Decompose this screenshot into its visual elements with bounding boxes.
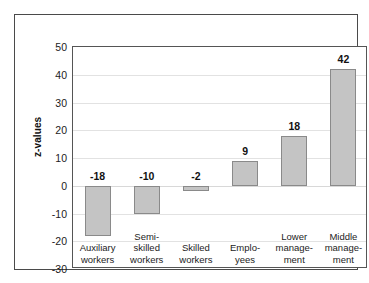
y-axis-title: z-values: [32, 117, 43, 157]
y-axis-tick-label: 10: [55, 152, 67, 164]
bar-category-slot: -10Semi-skilledworkers: [122, 47, 171, 267]
bar-category-slot: 42Middlemanage-ment: [319, 47, 368, 267]
x-axis-category-label: Middlemanage-ment: [325, 231, 363, 266]
bars-group: -18Auxiliaryworkers-10Semi-skilledworker…: [73, 47, 366, 267]
bar-value-label: -10: [139, 170, 154, 182]
bar[interactable]: [183, 186, 209, 192]
bar-value-label: 18: [288, 120, 300, 132]
y-axis-tick-label: 50: [55, 41, 67, 53]
bar-category-slot: 18Lowermanage-ment: [270, 47, 319, 267]
y-axis-tick-label: -20: [52, 235, 67, 247]
x-axis-category-label: Emplo-yees: [230, 242, 260, 265]
figure-outer-frame: z-values 50403020100-10-20-30 -18Auxilia…: [14, 14, 358, 270]
y-axis-tick-label: 20: [55, 124, 67, 136]
bar[interactable]: [281, 136, 307, 186]
y-axis-tick-label: -10: [52, 208, 67, 220]
y-axis-tick-label: 0: [61, 180, 67, 192]
plot-area: 50403020100-10-20-30 -18Auxiliaryworkers…: [72, 46, 367, 268]
x-axis-category-label: Skilledworkers: [179, 242, 212, 265]
bar-value-label: -18: [90, 170, 105, 182]
y-axis-tick-label: -30: [52, 263, 67, 275]
bar[interactable]: [85, 186, 111, 236]
y-axis-tick-label: 40: [55, 69, 67, 81]
bar-category-slot: -2Skilledworkers: [171, 47, 220, 267]
bar-value-label: -2: [191, 170, 200, 182]
bar[interactable]: [232, 161, 258, 186]
x-axis-category-label: Semi-skilledworkers: [130, 231, 163, 266]
bar[interactable]: [330, 69, 356, 186]
bar-value-label: 9: [242, 145, 248, 157]
bar-category-slot: -18Auxiliaryworkers: [73, 47, 122, 267]
bar-category-slot: 9Emplo-yees: [221, 47, 270, 267]
x-axis-category-label: Lowermanage-ment: [275, 231, 313, 266]
bar-value-label: 42: [338, 53, 350, 65]
bar[interactable]: [134, 186, 160, 214]
x-axis-category-label: Auxiliaryworkers: [80, 242, 116, 265]
chart-figure: z-values 50403020100-10-20-30 -18Auxilia…: [0, 0, 369, 283]
y-axis-tick-label: 30: [55, 97, 67, 109]
